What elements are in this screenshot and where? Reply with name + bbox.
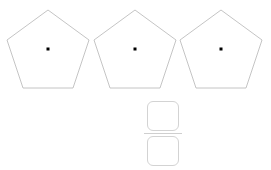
pentagon-1 [3,4,93,94]
answer-fraction [144,101,182,166]
pentagon-group [0,0,271,96]
equation-area: 3÷5= [0,98,271,170]
pentagon-2 [90,4,180,94]
pentagon-center-dot [47,48,50,51]
pentagon-3 [176,4,266,94]
worksheet-page: 3÷5= [0,0,271,170]
fraction-bar [144,133,182,134]
pentagon-center-dot [134,48,137,51]
fraction-denominator-input[interactable] [147,136,179,166]
fraction-numerator-input[interactable] [147,101,179,131]
pentagon-center-dot [220,48,223,51]
